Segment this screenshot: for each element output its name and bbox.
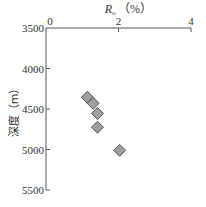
x-ticks: 024 bbox=[47, 15, 194, 32]
x-tick-label: 4 bbox=[188, 15, 194, 27]
x-axis-title-unit: （%） bbox=[118, 2, 152, 16]
x-tick-label: 2 bbox=[116, 15, 122, 27]
data-points bbox=[81, 91, 125, 156]
y-axis-title: 深度（m） bbox=[7, 83, 21, 138]
y-tick-label: 4000 bbox=[22, 63, 45, 75]
y-tick-label: 4500 bbox=[22, 103, 45, 115]
x-tick-label: 0 bbox=[47, 15, 53, 27]
y-tick-label: 3500 bbox=[22, 22, 45, 34]
y-tick-label: 5500 bbox=[22, 184, 45, 196]
data-point-diamond bbox=[91, 121, 103, 133]
data-point-diamond bbox=[114, 144, 126, 156]
x-axis-title: R o （%） bbox=[104, 2, 152, 17]
ro-depth-chart: R o （%） 深度（m） 024 35004000450050005500 bbox=[0, 0, 206, 207]
y-tick-label: 5000 bbox=[22, 144, 45, 156]
